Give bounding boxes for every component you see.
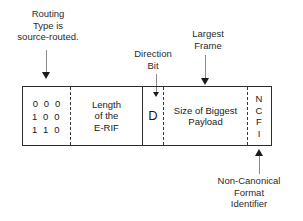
diagram-canvas: Routing Type is source-routed. Direction… bbox=[0, 0, 303, 221]
field-erif-length-value: Length of the E-RIF bbox=[92, 99, 121, 134]
arrow-down-icon-routing-type bbox=[42, 72, 50, 79]
field-ncfi: N C F I bbox=[248, 87, 270, 145]
arrow-up-icon-ncfi bbox=[255, 149, 263, 156]
callout-routing-type: Routing Type is source-routed. bbox=[0, 8, 96, 43]
field-direction-bit: D bbox=[143, 87, 164, 145]
field-erif-length: Length of the E-RIF bbox=[71, 87, 143, 145]
field-routing-type-value: 0 0 0 1 0 0 1 1 0 bbox=[31, 97, 62, 136]
leader-line-ncfi bbox=[259, 155, 260, 174]
field-routing-type: 0 0 0 1 0 0 1 1 0 bbox=[23, 87, 71, 145]
leader-line-routing-type bbox=[46, 50, 47, 72]
leader-line-largest-frame bbox=[205, 55, 206, 79]
callout-non-canonical-format-identifier: Non-Canonical Format Identifier bbox=[196, 175, 302, 210]
field-direction-bit-value: D bbox=[148, 109, 157, 123]
field-largest-frame: Size of Biggest Payload bbox=[164, 87, 248, 145]
callout-largest-frame: Largest Frame bbox=[175, 28, 241, 51]
arrow-down-icon-largest-frame bbox=[201, 78, 209, 85]
frame-diagram: 0 0 0 1 0 0 1 1 0 Length of the E-RIF D … bbox=[22, 86, 272, 146]
field-ncfi-value: N C F I bbox=[256, 93, 263, 139]
callout-direction-bit: Direction Bit bbox=[120, 48, 186, 71]
field-largest-frame-value: Size of Biggest Payload bbox=[174, 105, 237, 128]
